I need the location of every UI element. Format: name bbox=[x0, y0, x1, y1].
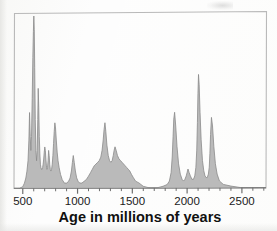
density-area-series bbox=[14, 16, 266, 188]
plot-frame bbox=[14, 12, 267, 189]
x-axis-tick-label: 1000 bbox=[65, 195, 91, 207]
x-axis-tick-label: 500 bbox=[13, 195, 32, 207]
x-axis-tick-label: 1500 bbox=[120, 195, 146, 207]
x-axis-tick-label: 2500 bbox=[229, 195, 255, 207]
x-axis-title: Age in millions of years bbox=[59, 209, 222, 225]
figure-container: 5001000150020002500 Age in millions of y… bbox=[0, 0, 277, 231]
density-plot-svg: 5001000150020002500 Age in millions of y… bbox=[0, 0, 277, 231]
x-axis-tick-label: 2000 bbox=[174, 195, 200, 207]
x-axis-tick-labels: 5001000150020002500 bbox=[13, 195, 255, 208]
